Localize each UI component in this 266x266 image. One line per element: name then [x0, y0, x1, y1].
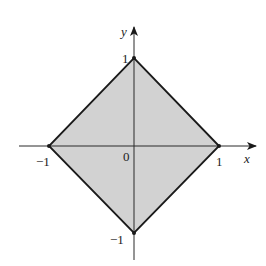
tick-label-y-neg: −1 — [110, 232, 124, 247]
diagram-canvas: y x 0 1 −1 −1 1 — [0, 0, 266, 266]
tick-label-x-neg: −1 — [36, 154, 50, 169]
origin-label: 0 — [123, 149, 130, 164]
vertex-right — [217, 144, 221, 148]
vertex-top — [132, 56, 136, 60]
vertex-bottom — [132, 231, 136, 235]
y-axis-label: y — [119, 24, 127, 39]
x-axis-label: x — [243, 151, 250, 166]
tick-label-y-pos: 1 — [122, 51, 129, 66]
vertex-left — [47, 144, 51, 148]
tick-label-x-pos: 1 — [216, 154, 223, 169]
